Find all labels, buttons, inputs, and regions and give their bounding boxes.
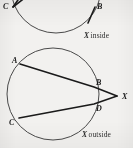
- top-point-label-c: C: [3, 2, 9, 11]
- top-point-label-b: B: [96, 2, 103, 11]
- bottom-figure-group: A B D C X: [7, 48, 128, 140]
- bottom-point-label-c: C: [9, 118, 15, 127]
- geometry-canvas: C B A B D C X: [0, 0, 133, 148]
- caption-outside-variable: X: [82, 130, 89, 139]
- top-chord-b-lower: [88, 7, 95, 23]
- caption-x-inside: Xinside: [84, 31, 109, 40]
- bottom-point-label-x: X: [121, 92, 128, 101]
- figure-page: C B A B D C X Xinside Xoutside: [0, 0, 133, 148]
- secant-a-b-x: [20, 64, 117, 96]
- secant-c-d-x: [19, 96, 117, 118]
- top-figure-group: C B: [3, 0, 103, 33]
- caption-inside-variable: X: [84, 31, 91, 40]
- bottom-point-label-d: D: [95, 104, 102, 113]
- bottom-point-label-a: A: [11, 56, 18, 65]
- caption-inside-text: inside: [91, 31, 110, 40]
- bottom-circle-outline: [7, 48, 99, 140]
- top-circle-outline: [11, 0, 101, 33]
- bottom-point-label-b: B: [95, 78, 102, 87]
- caption-outside-text: outside: [89, 130, 111, 139]
- caption-x-outside: Xoutside: [82, 130, 111, 139]
